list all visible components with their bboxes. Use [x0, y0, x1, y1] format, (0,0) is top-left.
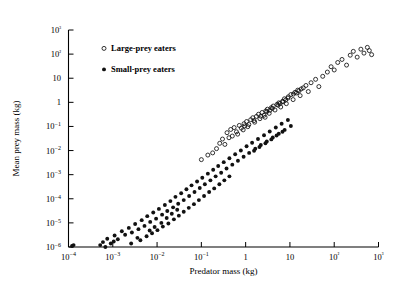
data-point	[170, 212, 174, 216]
data-point	[133, 222, 137, 226]
data-point	[218, 141, 222, 145]
legend-marker-open-circle	[102, 46, 106, 50]
data-point	[206, 153, 210, 157]
data-point	[242, 155, 246, 159]
data-point	[220, 137, 224, 141]
data-point	[348, 53, 352, 57]
data-point	[113, 234, 117, 238]
series-large-prey-eaters	[199, 45, 373, 161]
data-point	[230, 134, 234, 138]
data-point	[233, 152, 237, 156]
data-point	[130, 231, 134, 235]
data-point	[187, 194, 191, 198]
tick-label: 10³	[51, 25, 62, 35]
tick-label: 10−1	[46, 121, 61, 131]
data-point	[154, 217, 158, 221]
data-point	[274, 126, 278, 130]
data-point	[286, 118, 290, 122]
plot-canvas: 10−610−510−410−310−210−111010²10³10−410−…	[0, 0, 395, 291]
data-point	[103, 245, 107, 249]
data-point	[280, 122, 284, 126]
data-point	[222, 178, 226, 182]
tick-label: 10−4	[61, 251, 76, 261]
data-point	[116, 237, 120, 241]
series-small-prey-eaters	[70, 118, 293, 249]
data-point	[314, 77, 318, 81]
data-point	[101, 240, 105, 244]
data-point	[214, 174, 218, 178]
y-axis-title: Mean prey mass (kg)	[11, 100, 21, 176]
tick-label: 10−5	[46, 218, 61, 228]
tick-label: 10−4	[46, 194, 61, 204]
data-point	[215, 147, 219, 151]
data-point	[309, 81, 313, 85]
tick-label: 10−6	[46, 242, 61, 252]
x-axis-title: Predator mass (kg)	[190, 266, 258, 276]
data-point	[325, 70, 329, 74]
data-point	[250, 141, 254, 145]
data-point	[145, 234, 149, 238]
data-point	[232, 126, 236, 130]
data-point	[120, 229, 124, 233]
data-point	[160, 213, 164, 217]
tick-label: 10−3	[46, 169, 61, 179]
data-point	[177, 214, 181, 218]
data-point	[193, 190, 197, 194]
data-point	[176, 202, 180, 206]
data-point	[195, 180, 199, 184]
data-point	[367, 49, 371, 53]
data-point	[336, 60, 340, 64]
data-point	[197, 198, 201, 202]
data-point	[275, 134, 279, 138]
data-point	[212, 186, 216, 190]
data-point	[200, 176, 204, 180]
data-point	[143, 224, 147, 228]
data-point	[222, 160, 226, 164]
data-point	[227, 156, 231, 160]
data-point	[157, 207, 161, 211]
data-point	[252, 149, 256, 153]
tick-label: 1	[244, 252, 248, 262]
tick-label: 10	[286, 252, 295, 262]
data-point	[247, 151, 251, 155]
data-point	[165, 216, 169, 220]
data-point	[217, 182, 221, 186]
data-point	[184, 187, 188, 191]
data-point	[148, 220, 152, 224]
data-point	[345, 63, 349, 67]
data-point	[281, 130, 285, 134]
data-point	[165, 209, 169, 213]
data-point	[223, 142, 227, 146]
data-point	[202, 194, 206, 198]
data-point	[206, 172, 210, 176]
data-point	[329, 65, 333, 69]
data-point	[245, 144, 249, 148]
data-point	[182, 210, 186, 214]
data-point	[179, 191, 183, 195]
data-point	[225, 167, 229, 171]
tick-label: 10−2	[46, 145, 61, 155]
data-point	[98, 243, 102, 247]
data-point	[187, 206, 191, 210]
tick-label: 10²	[329, 251, 340, 261]
data-point	[219, 171, 223, 175]
data-point	[289, 124, 293, 128]
data-point	[199, 158, 203, 162]
data-point	[175, 208, 179, 212]
data-point	[105, 237, 109, 241]
tick-label: 10−2	[150, 251, 165, 261]
data-point	[151, 211, 155, 215]
data-point	[268, 130, 272, 134]
data-point	[216, 164, 220, 168]
data-point	[207, 190, 211, 194]
data-point	[298, 94, 302, 98]
data-point	[351, 49, 355, 53]
data-point	[362, 51, 366, 55]
data-point	[148, 229, 152, 233]
data-point	[129, 242, 133, 246]
data-point	[127, 226, 131, 230]
tick-label: 10³	[373, 251, 384, 261]
data-point	[291, 98, 295, 102]
data-point	[236, 159, 240, 163]
data-point	[135, 236, 139, 240]
